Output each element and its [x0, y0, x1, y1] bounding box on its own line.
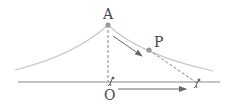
diagram-canvas: A P O: [0, 0, 233, 109]
label-p: P: [154, 34, 163, 50]
person-figure-right: [194, 79, 200, 88]
label-o: O: [104, 87, 115, 103]
point-p-dot: [146, 47, 151, 52]
trajectory-curve: [15, 25, 213, 71]
point-a-dot: [105, 22, 110, 27]
dashed-line-p-figure: [149, 50, 197, 83]
label-a: A: [102, 6, 114, 22]
